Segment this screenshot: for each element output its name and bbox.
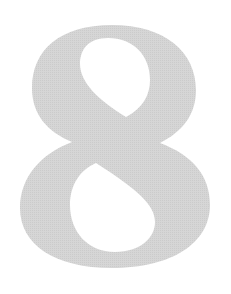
digit-eight-glyph	[0, 0, 231, 294]
digit-figure: 8	[0, 0, 231, 294]
